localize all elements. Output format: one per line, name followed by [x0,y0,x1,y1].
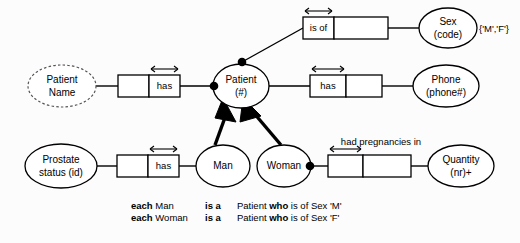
label-prostate-status-line1: Prostate [42,154,80,165]
role-box-left-prostate[interactable] [117,155,148,177]
predicate-label-had-pregnancies-in: had pregnancies in [341,136,421,147]
object-type-man[interactable]: Man [196,145,250,187]
subtype-def-pred-pre-woman: Patient [237,212,269,223]
value-constraint-sex: {'M','F'} [479,23,509,34]
subtype-def-verb-man: is a [205,200,237,212]
mandatory-dot-woman-pregnancies-role [306,162,315,171]
label-quantity-line1: Quantity [442,154,479,165]
role-box-left-pregnancies[interactable] [328,155,363,177]
subtype-def-predicate-man: Patient who is of Sex 'M' [237,200,341,212]
role-label-is-of-sex: is of [310,22,328,33]
role-label-has-prostate: has [156,160,172,171]
label-quantity-line2: (nr)+ [450,167,472,178]
label-patient-line1: Patient [225,74,256,85]
subtype-def-pred-pre-man: Patient [237,200,269,211]
object-type-phone[interactable]: Phone (phone#) [413,65,479,107]
mandatory-dot-patient-name-role [210,82,219,91]
object-type-patient[interactable]: Patient (#) [213,64,269,108]
role-box-right-sex[interactable] [334,17,388,39]
fact-type-man-has-prostate-status[interactable]: has [117,146,179,177]
subtype-def-who-keyword-man: who [269,200,288,211]
fact-type-patient-has-phone[interactable]: has [310,66,382,97]
subtype-def-pred-post-man: is of Sex 'M' [288,200,341,211]
label-man: Man [213,160,232,171]
fact-type-patient-has-name[interactable]: has [118,66,180,97]
label-woman: Woman [267,160,301,171]
label-patient-name-line1: Patient [46,74,77,85]
object-type-woman[interactable]: Woman [257,145,311,187]
role-box-left-patientname[interactable] [118,75,149,97]
role-label-has-patientname: has [157,80,173,91]
label-phone-line1: Phone [432,74,461,85]
mandatory-dot-patient-sex-role [238,58,247,67]
subtype-def-each-keyword-woman: each [131,212,153,223]
subtype-def-pred-post-woman: is of Sex 'F' [288,212,339,223]
label-prostate-status-line2: status (id) [39,167,83,178]
orm-diagram-canvas: has is of has [0,0,520,243]
object-type-patient-name[interactable]: Patient Name [28,65,96,107]
fact-type-patient-is-of-sex[interactable]: is of [303,8,388,39]
label-patient-line2: (#) [235,87,247,98]
connector-patient-to-isof [242,28,303,62]
subtype-def-subject-name-woman: Woman [155,212,188,223]
subtype-def-subject-name-man: Man [155,200,173,211]
subtype-definition-row-man: each Man is a Patient who is of Sex 'M' [131,200,341,212]
subtype-def-predicate-woman: Patient who is of Sex 'F' [237,212,339,224]
object-type-sex[interactable]: Sex (code) [419,8,477,48]
object-type-quantity[interactable]: Quantity (nr)+ [428,145,494,187]
subtype-definition-row-woman: each Woman is a Patient who is of Sex 'F… [131,212,341,224]
role-box-right-pregnancies[interactable] [363,155,411,177]
subtype-def-subject-woman: each Woman [131,212,205,224]
label-sex-line2: (code) [434,29,462,40]
object-type-prostate-status[interactable]: Prostate status (id) [25,144,97,188]
subtype-def-subject-man: each Man [131,200,205,212]
role-label-has-phone: has [320,80,336,91]
subtype-def-each-keyword-man: each [131,200,153,211]
label-phone-line2: (phone#) [426,87,466,98]
subtype-def-verb-woman: is a [205,212,237,224]
role-box-right-phone[interactable] [346,75,382,97]
subtype-def-who-keyword-woman: who [269,212,288,223]
label-sex-line1: Sex [439,16,456,27]
label-patient-name-line2: Name [49,87,76,98]
fact-type-woman-had-pregnancies-in[interactable]: had pregnancies in [328,136,421,177]
subtype-definition-legend: each Man is a Patient who is of Sex 'M' … [131,200,341,223]
